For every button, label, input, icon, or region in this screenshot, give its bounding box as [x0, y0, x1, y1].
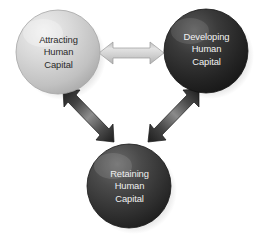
connector-developing-retaining: [148, 89, 199, 142]
diagram-canvas: [0, 0, 259, 236]
node-developing-highlight: [171, 18, 209, 44]
node-attracting-highlight: [23, 19, 63, 47]
node-retaining-circle: [87, 144, 171, 228]
double-headed-arrow-horizontal: [99, 42, 164, 64]
human-capital-cycle-diagram: Attracting Human Capital Developing Huma…: [0, 0, 259, 236]
node-attracting-circle: [16, 10, 100, 94]
connector-attracting-developing: [99, 42, 164, 64]
double-headed-arrow-diagonal-left: [63, 89, 114, 142]
connector-attracting-retaining: [63, 89, 114, 142]
node-retaining-highlight: [94, 153, 132, 179]
node-developing-circle: [164, 9, 248, 93]
double-headed-arrow-diagonal-right: [148, 89, 199, 142]
